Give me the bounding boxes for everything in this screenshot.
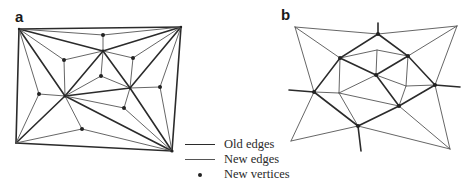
new-edge-swatch-icon <box>185 159 215 160</box>
panel-b-old-edges <box>289 23 460 151</box>
legend-item-old-edges: Old edges <box>185 137 290 152</box>
old-edge-swatch-icon <box>185 144 215 145</box>
vertex-dot-icon <box>185 173 215 177</box>
panel-a-new-edges <box>16 27 181 151</box>
legend-label-old-edges: Old edges <box>224 137 274 152</box>
panel-b-new-vertices <box>312 32 437 128</box>
legend-label-new-vertices: New vertices <box>224 167 290 182</box>
legend-item-new-vertices: New vertices <box>185 167 290 182</box>
panel-b-diagram <box>289 23 460 151</box>
legend-label-new-edges: New edges <box>224 152 279 167</box>
legend-item-new-edges: New edges <box>185 152 290 167</box>
panel-a-diagram <box>16 26 182 153</box>
legend: Old edges New edges New vertices <box>185 137 290 182</box>
panel-a-old-edges <box>16 27 181 151</box>
